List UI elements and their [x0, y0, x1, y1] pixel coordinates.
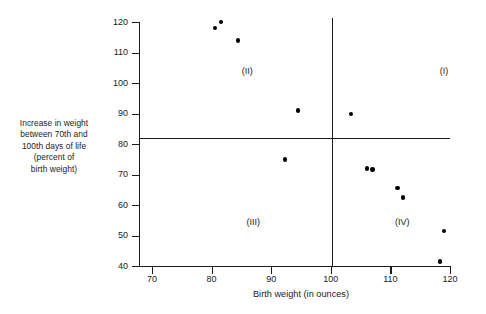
y-axis-tick	[132, 22, 139, 23]
y-axis-tick-label: 90	[104, 109, 128, 118]
quadrant-label: (II)	[242, 66, 253, 75]
x-axis-tick-label: 110	[377, 275, 403, 284]
y-axis-tick	[132, 114, 139, 115]
data-point	[442, 229, 447, 234]
data-point	[370, 167, 375, 172]
y-axis-tick	[132, 144, 139, 145]
x-axis-line	[139, 266, 451, 267]
y-axis-tick-label: 60	[104, 201, 128, 210]
y-axis-tick	[132, 175, 139, 176]
horizontal-median-line	[139, 138, 450, 139]
data-point	[365, 166, 370, 171]
data-point	[438, 259, 443, 264]
data-point	[236, 38, 241, 43]
x-axis-tick	[152, 267, 153, 274]
data-point	[283, 157, 288, 162]
x-axis-tick-label: 80	[199, 275, 225, 284]
x-axis-tick-label: 100	[318, 275, 344, 284]
x-axis-title: Birth weight (in ounces)	[152, 289, 450, 299]
vertical-median-line	[332, 18, 333, 267]
y-axis-tick	[132, 83, 139, 84]
quadrant-label: (I)	[440, 66, 449, 75]
y-axis-tick	[132, 266, 139, 267]
y-axis-tick-label: 120	[104, 18, 128, 27]
y-axis-tick	[132, 205, 139, 206]
x-axis-tick-label: 120	[437, 275, 463, 284]
y-axis-tick-label: 50	[104, 231, 128, 240]
y-axis-tick-label: 40	[104, 262, 128, 271]
y-axis-tick-label: 110	[104, 48, 128, 57]
x-axis-tick-label: 90	[258, 275, 284, 284]
x-axis-tick	[450, 267, 451, 274]
x-axis-tick-label: 70	[139, 275, 165, 284]
y-axis-tick-label: 70	[104, 170, 128, 179]
y-axis-tick	[132, 236, 139, 237]
x-axis-tick	[331, 267, 332, 274]
plot-area: 405060708090100110120708090100110120(I)(…	[152, 22, 450, 266]
data-point	[213, 26, 218, 31]
quadrant-label: (III)	[247, 217, 261, 226]
data-point	[395, 186, 400, 191]
data-point	[401, 195, 406, 200]
data-point	[296, 108, 301, 113]
y-axis-tick-label: 100	[104, 79, 128, 88]
x-axis-tick	[212, 267, 213, 274]
y-axis-line	[139, 22, 140, 267]
scatter-plot-figure: Increase in weight between 70th and 100t…	[0, 0, 486, 314]
figure-caption	[24, 308, 354, 314]
x-axis-tick	[390, 267, 391, 274]
y-axis-tick	[132, 53, 139, 54]
y-axis-tick-label: 80	[104, 140, 128, 149]
quadrant-label: (IV)	[395, 217, 410, 226]
data-point	[219, 20, 224, 25]
data-point	[349, 112, 354, 117]
y-axis-title: Increase in weight between 70th and 100t…	[2, 118, 106, 175]
x-axis-tick	[271, 267, 272, 274]
